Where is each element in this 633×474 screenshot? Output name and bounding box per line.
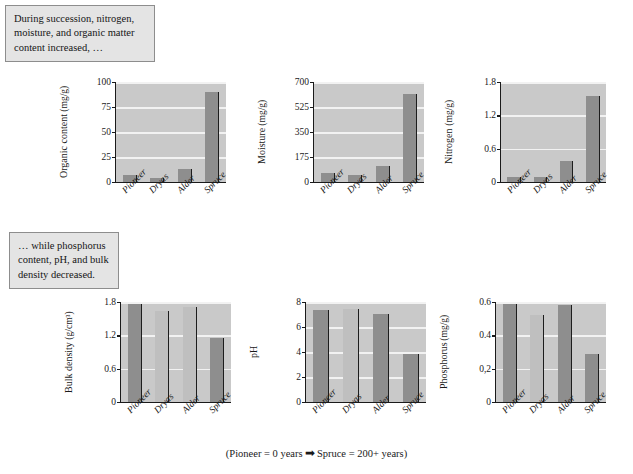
bar-spruce [403, 94, 417, 182]
chart-phosphorus: Phosphorus (mg/g)00,20.40.6PioneerDryasA… [431, 292, 609, 452]
y-axis-tick-label: 4 [296, 347, 301, 357]
y-axis-label: Organic content (mg/g) [51, 82, 77, 182]
y-axis-label: Nitrogen (mg/g) [436, 82, 462, 182]
annotation-callout-bottom: … while phosphorus content, pH, and bulk… [9, 232, 119, 289]
bar-dryas [530, 315, 544, 402]
y-axis-tick-label: 0,2 [479, 364, 491, 374]
y-axis-tick [310, 107, 314, 108]
y-axis-tick [117, 369, 121, 370]
y-axis-units: (g/cm³) [64, 311, 75, 342]
y-axis-tick-label: 700 [295, 77, 309, 87]
y-axis-tick-label: 2 [296, 372, 301, 382]
y-axis-tick [112, 82, 116, 83]
bar-dryas [155, 311, 169, 402]
y-axis-tick-label: 525 [295, 102, 309, 112]
gridline [116, 82, 226, 84]
y-axis-tick-label: 0.6 [484, 144, 496, 154]
bar-dryas [343, 309, 359, 402]
y-axis-tick-label: 1.8 [104, 297, 116, 307]
plot-area: 00.61.21.8 [500, 82, 606, 183]
y-axis-tick [112, 107, 116, 108]
bar-spruce [586, 96, 600, 182]
y-axis-label-text: Phosphorus [438, 343, 450, 390]
plot-area: 0175350525700 [313, 82, 424, 183]
y-axis-tick-label: 1.2 [104, 330, 116, 340]
arrow-icon: ➡ [305, 446, 314, 460]
bar-pioneer [313, 310, 329, 403]
annotation-callout-top: During succession, nitrogen, moisture, a… [5, 5, 155, 62]
bar-alder [373, 314, 389, 402]
plot-area: 00.61.21.8 [120, 302, 231, 403]
y-axis-tick [117, 335, 121, 336]
y-axis-tick [497, 115, 501, 116]
y-axis-tick-label: 8 [296, 297, 301, 307]
y-axis-tick-label: 0.6 [479, 297, 491, 307]
y-axis-label-text: Organic content [58, 114, 70, 178]
y-axis-tick [112, 157, 116, 158]
y-axis-tick [492, 402, 496, 403]
y-axis-tick [310, 157, 314, 158]
y-axis-tick [302, 302, 306, 303]
y-axis-label-text: pH [248, 346, 260, 358]
figure-caption: (Pioneer = 0 years ➡ Spruce = 200+ years… [0, 446, 633, 461]
y-axis-tick [112, 182, 116, 183]
gridline [314, 82, 424, 84]
y-axis-tick [117, 402, 121, 403]
y-axis-tick-label: 0 [106, 177, 111, 187]
chart-organic-content: Organic content (mg/g)0255075100PioneerD… [51, 72, 229, 232]
plot-area: 0255075100 [115, 82, 226, 183]
y-axis-tick [302, 402, 306, 403]
y-axis-tick-label: 1.8 [484, 77, 496, 87]
y-axis-tick-label: 0 [486, 397, 491, 407]
y-axis-tick [302, 352, 306, 353]
gridline [501, 82, 606, 84]
y-axis-tick [492, 335, 496, 336]
y-axis-tick [310, 182, 314, 183]
y-axis-tick [117, 302, 121, 303]
chart-bulk-density: Bulk density (g/cm³)00.61.21.8PioneerDry… [56, 292, 234, 452]
y-axis-tick-label: 0 [111, 397, 116, 407]
y-axis-units: (mg/g) [444, 100, 455, 128]
y-axis-units: (mg/g) [439, 315, 450, 343]
y-axis-tick [497, 82, 501, 83]
y-axis-tick [497, 182, 501, 183]
chart-moisture: Moisture (mg/g)0175350525700PioneerDryas… [249, 72, 427, 232]
y-axis-label: Bulk density (g/cm³) [56, 302, 82, 402]
y-axis-tick-label: 25 [102, 152, 112, 162]
y-axis-label-text: Nitrogen [443, 128, 455, 164]
y-axis-label-text: Bulk density [63, 342, 75, 393]
y-axis-tick [310, 132, 314, 133]
y-axis-units: (mg/g) [257, 100, 268, 128]
y-axis-tick [492, 302, 496, 303]
caption-left: (Pioneer = 0 years [226, 448, 303, 459]
plot-area: 02468 [305, 302, 426, 403]
y-axis-tick-label: 6 [296, 322, 301, 332]
bar-pioneer [128, 304, 142, 402]
succession-figure: During succession, nitrogen, moisture, a… [0, 0, 633, 474]
y-axis-tick [492, 369, 496, 370]
y-axis-label: pH [241, 302, 267, 402]
bar-pioneer [503, 304, 517, 402]
bar-alder [558, 305, 572, 402]
y-axis-tick-label: 1.2 [484, 110, 496, 120]
y-axis-tick-label: 100 [97, 77, 111, 87]
y-axis-tick-label: 0 [491, 177, 496, 187]
y-axis-tick [497, 149, 501, 150]
x-axis-labels: PioneerDryasAlderSpruce [115, 186, 225, 232]
y-axis-label: Moisture (mg/g) [249, 82, 275, 182]
chart-ph: pH02468PioneerDryasAlderSpruce [241, 292, 429, 452]
gridline [306, 302, 426, 304]
plot-area: 00,20.40.6 [495, 302, 606, 403]
y-axis-tick-label: 0.4 [479, 330, 491, 340]
y-axis-tick [302, 327, 306, 328]
y-axis-tick [310, 82, 314, 83]
y-axis-tick-label: 0 [296, 397, 301, 407]
y-axis-tick-label: 0 [304, 177, 309, 187]
y-axis-label-text: Moisture [256, 128, 268, 164]
bar-spruce [205, 92, 219, 182]
y-axis-units: (mg/g) [59, 86, 70, 114]
chart-nitrogen: Nitrogen (mg/g)00.61.21.8PioneerDryasAld… [436, 72, 609, 232]
y-axis-tick-label: 50 [102, 127, 112, 137]
y-axis-tick-label: 350 [295, 127, 309, 137]
bar-alder [183, 307, 197, 402]
